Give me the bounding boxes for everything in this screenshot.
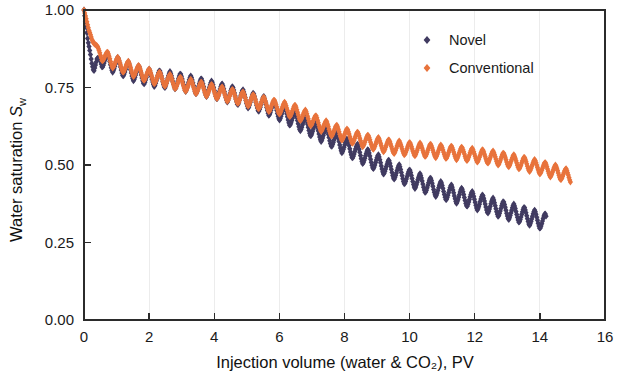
x-tick-label: 0 bbox=[80, 328, 88, 345]
x-tick-label: 14 bbox=[532, 328, 549, 345]
chart-figure: 02468101214160.000.250.500.751.00 NovelC… bbox=[0, 0, 623, 380]
y-tick-label: 0.00 bbox=[45, 311, 74, 328]
x-tick-label: 10 bbox=[401, 328, 418, 345]
x-tick-label: 8 bbox=[340, 328, 348, 345]
water-saturation-chart: 02468101214160.000.250.500.751.00 NovelC… bbox=[0, 0, 623, 380]
x-tick-label: 2 bbox=[145, 328, 153, 345]
y-axis-title-group: Water saturation Sw bbox=[7, 98, 28, 242]
y-tick-label: 0.50 bbox=[45, 156, 74, 173]
y-tick-label: 0.25 bbox=[45, 234, 74, 251]
legend-label-novel: Novel bbox=[449, 32, 486, 48]
chart-background bbox=[0, 0, 623, 380]
legend-label-conventional: Conventional bbox=[449, 60, 534, 76]
y-axis-title: Water saturation Sw bbox=[7, 98, 28, 242]
x-tick-label: 16 bbox=[597, 328, 614, 345]
y-tick-label: 0.75 bbox=[45, 79, 74, 96]
x-tick-label: 12 bbox=[466, 328, 483, 345]
x-tick-label: 6 bbox=[275, 328, 283, 345]
x-tick-label: 4 bbox=[210, 328, 218, 345]
y-tick-label: 1.00 bbox=[45, 1, 74, 18]
x-axis-title: Injection volume (water & CO₂), PV bbox=[216, 353, 474, 371]
